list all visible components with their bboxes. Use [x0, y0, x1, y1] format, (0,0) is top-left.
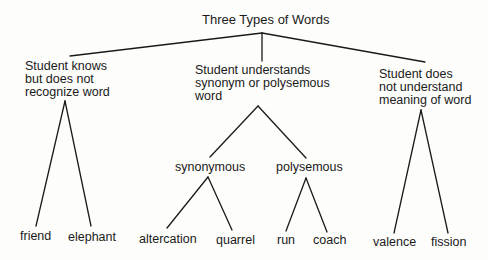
edge-right-to-valence [394, 110, 421, 233]
example-valence: valence [373, 236, 416, 249]
category-label-line: meaning of word [379, 94, 471, 107]
tree-edges [0, 0, 488, 260]
edge-left-to-friend [36, 101, 65, 226]
category-label-line: recognize word [25, 86, 110, 99]
edge-polysemous-to-run [286, 178, 306, 231]
example-quarrel: quarrel [216, 234, 255, 247]
edge-left-to-elephant [65, 101, 91, 226]
subtype-synonymous: synonymous [175, 161, 245, 174]
example-run: run [277, 234, 295, 247]
diagram-title: Three Types of Words [202, 13, 329, 26]
example-fission: fission [431, 236, 466, 249]
edge-root-to-left [70, 33, 262, 56]
category-does-not-understand: Student does not understand meaning of w… [379, 68, 471, 107]
edge-right-to-fission [421, 110, 448, 233]
word-types-tree-diagram: Three Types of Words Student knows but d… [0, 0, 488, 260]
example-elephant: elephant [68, 231, 116, 244]
edge-synonymous-to-quarrel [208, 177, 232, 230]
edge-middle-to-synonymous [210, 106, 258, 157]
edge-polysemous-to-coach [306, 178, 327, 232]
category-understands-synonym-polysemous: Student understands synonym or polysemou… [195, 64, 330, 103]
edge-middle-to-polysemous [258, 106, 306, 158]
example-friend: friend [20, 230, 51, 243]
subtype-polysemous: polysemous [276, 161, 343, 174]
example-coach: coach [313, 234, 346, 247]
edge-synonymous-to-altercation [167, 177, 208, 228]
example-altercation: altercation [139, 233, 197, 246]
category-label-line: word [195, 90, 330, 103]
edge-root-to-right [262, 33, 425, 62]
category-knows-not-recognize: Student knows but does not recognize wor… [25, 60, 110, 99]
